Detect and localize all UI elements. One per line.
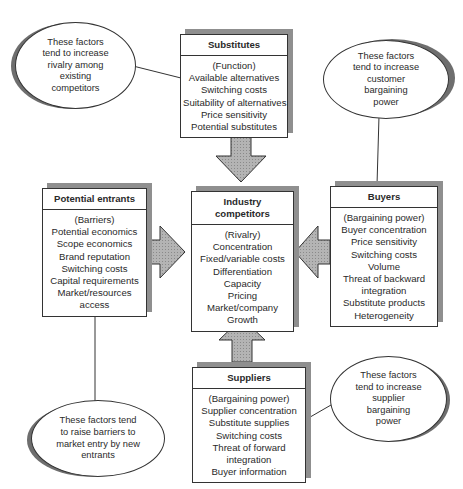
arrow-entrants-to-industry: [146, 226, 185, 278]
buyers-list: (Bargaining power) Buyer concentration P…: [331, 208, 437, 326]
list-item: Capacity: [194, 278, 291, 290]
list-item: Buyer concentration: [333, 224, 435, 236]
substitutes-list: (Function) Available alternatives Switch…: [181, 56, 287, 137]
list-item: Price sensitivity: [333, 236, 435, 248]
callout-text: existing: [42, 71, 108, 83]
list-item: Potential economics: [45, 226, 144, 238]
connector-line: [133, 66, 181, 78]
callout-text: tend to increase: [42, 48, 108, 60]
callout-supplier-power: These factors tend to increase supplier …: [330, 356, 447, 442]
list-item: Threat of forward: [195, 442, 303, 454]
callout-text: competitors: [42, 83, 108, 95]
list-item: Market/company: [194, 302, 291, 314]
callout-text: power: [353, 97, 419, 109]
list-item: Scope economics: [45, 238, 144, 250]
callout-text: market entry by new: [56, 439, 140, 451]
list-item: Switching costs: [183, 84, 285, 96]
list-item: Suitability of alternatives: [183, 97, 285, 109]
list-item: (Barriers): [45, 214, 144, 226]
list-item: (Bargaining power): [333, 212, 435, 224]
list-item: Fixed/variable costs: [194, 253, 291, 265]
callout-text: to raise barriers to: [56, 427, 140, 439]
callout-text: These factors: [42, 37, 108, 49]
list-item: Threat of backward: [333, 273, 435, 285]
substitutes-box: Substitutes (Function) Available alterna…: [180, 34, 288, 138]
callout-text: These factors tend: [56, 415, 140, 427]
list-item: Pricing: [194, 290, 291, 302]
list-item: Potential substitutes: [183, 121, 285, 133]
list-item: Switching costs: [333, 249, 435, 261]
callout-text: These factors: [353, 51, 419, 63]
suppliers-list: (Bargaining power) Supplier concentratio…: [193, 389, 305, 482]
list-item: (Bargaining power): [195, 393, 303, 405]
connector-line: [305, 405, 331, 420]
list-item: Growth: [194, 314, 291, 326]
list-item: (Function): [183, 60, 285, 72]
list-item: Brand reputation: [45, 251, 144, 263]
callout-text: customer: [353, 74, 419, 86]
list-item: Capital requirements: [45, 275, 144, 287]
list-item: Available alternatives: [183, 72, 285, 84]
list-item: Differentiation: [194, 266, 291, 278]
list-item: Volume: [333, 261, 435, 273]
callout-text: rivalry among: [42, 60, 108, 72]
list-item: integration: [195, 454, 303, 466]
callout-text: bargaining: [353, 85, 419, 97]
callout-rivalry: These factors tend to increase rivalry a…: [15, 22, 136, 109]
industry-competitors-box: Industry competitors (Rivalry) Concentra…: [191, 191, 294, 332]
list-item: Buyer information: [195, 466, 303, 478]
callout-customer-power: These factors tend to increase customer …: [323, 40, 449, 119]
list-item: Supplier concentration: [195, 405, 303, 417]
suppliers-title: Suppliers: [193, 368, 305, 389]
buyers-title: Buyers: [331, 187, 437, 208]
list-item: (Rivalry): [194, 229, 291, 241]
potential-entrants-list: (Barriers) Potential economics Scope eco…: [43, 210, 146, 316]
callout-entry-barriers: These factors tend to raise barriers to …: [31, 400, 165, 477]
callout-text: entrants: [56, 450, 140, 462]
callout-text: tend to increase: [353, 62, 419, 74]
callout-text: These factors: [355, 370, 421, 382]
list-item: access: [45, 299, 144, 311]
arrow-buyers-to-industry: [295, 226, 330, 278]
buyers-box: Buyers (Bargaining power) Buyer concentr…: [330, 186, 438, 327]
potential-entrants-box: Potential entrants (Barriers) Potential …: [42, 188, 147, 317]
connector-line: [377, 116, 379, 185]
suppliers-box: Suppliers (Bargaining power) Supplier co…: [192, 367, 306, 483]
callout-text: power: [355, 416, 421, 428]
list-item: Switching costs: [195, 430, 303, 442]
list-item: Heterogeneity: [333, 310, 435, 322]
title-line: competitors: [194, 208, 291, 220]
list-item: integration: [333, 285, 435, 297]
list-item: Price sensitivity: [183, 109, 285, 121]
industry-competitors-list: (Rivalry) Concentration Fixed/variable c…: [192, 225, 293, 331]
substitutes-title: Substitutes: [181, 35, 287, 56]
list-item: Concentration: [194, 241, 291, 253]
callout-text: tend to increase: [355, 382, 421, 394]
list-item: Substitute supplies: [195, 417, 303, 429]
callout-text: bargaining: [355, 405, 421, 417]
list-item: Market/resources: [45, 287, 144, 299]
industry-competitors-title: Industry competitors: [192, 192, 293, 225]
potential-entrants-title: Potential entrants: [43, 189, 146, 210]
title-line: Industry: [194, 196, 291, 208]
list-item: Switching costs: [45, 263, 144, 275]
list-item: Substitute products: [333, 297, 435, 309]
callout-text: supplier: [355, 393, 421, 405]
